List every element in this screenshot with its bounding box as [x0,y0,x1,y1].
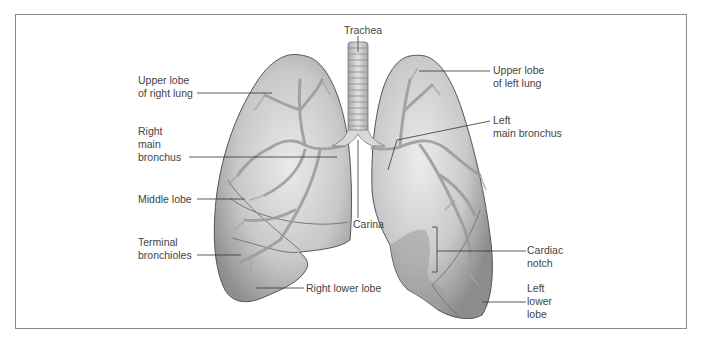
label-trachea: Trachea [344,24,382,37]
label-upper-lobe-right: Upper lobe of right lung [138,74,193,100]
label-carina: Carina [353,218,384,231]
label-left-lower-lobe: Left lower lobe [527,282,552,321]
label-upper-lobe-left: Upper lobe of left lung [493,64,544,90]
left-lung [372,55,493,318]
label-right-lower-lobe: Right lower lobe [306,282,381,295]
label-left-main-bronchus: Left main bronchus [493,114,562,140]
label-middle-lobe: Middle lobe [138,193,192,206]
label-cardiac-notch: Cardiac notch [527,244,563,270]
right-lung [214,54,351,301]
label-terminal-bronchioles: Terminal bronchioles [138,236,192,262]
label-right-main-bronchus: Right main bronchus [138,125,181,164]
